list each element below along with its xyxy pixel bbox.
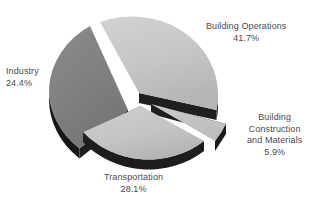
pie-label-building-construction-line2: Construction — [249, 124, 301, 134]
pie-label-transportation-value: 28.1% — [104, 184, 163, 196]
pie-label-building-operations-text: Building Operations — [206, 21, 286, 31]
pie-label-industry-text: Industry — [6, 66, 39, 76]
pie-label-transportation-text: Transportation — [104, 172, 163, 182]
pie-label-building-construction-line3: and Materials — [247, 135, 302, 145]
pie-label-building-operations-value: 41.7% — [206, 33, 286, 45]
pie-label-building-operations: Building Operations 41.7% — [206, 21, 286, 44]
pie-label-building-construction: Building Construction and Materials 5.9% — [247, 112, 302, 158]
pie-label-building-construction-line1: Building — [258, 112, 291, 122]
pie-label-transportation: Transportation 28.1% — [104, 172, 163, 195]
pie-label-building-construction-value: 5.9% — [247, 147, 302, 159]
pie-chart-figure: Building Operations 41.7% Building Const… — [0, 0, 314, 207]
pie-label-industry-value: 24.4% — [6, 78, 39, 90]
pie-label-industry: Industry 24.4% — [6, 66, 39, 89]
